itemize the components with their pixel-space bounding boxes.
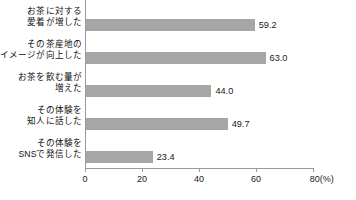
category-label: その体験を SNSで発信した [0, 138, 82, 161]
bar-value-label: 59.2 [259, 19, 277, 31]
category-label: その茶産地の イメージが向上した [0, 39, 82, 62]
bar [86, 19, 255, 31]
bar [86, 52, 266, 64]
bar-value-label: 49.7 [232, 118, 250, 130]
category-label: お茶に対する 愛着が増した [0, 6, 82, 29]
x-axis-tick-label: 80(%) [310, 174, 334, 184]
x-axis-tick [256, 168, 257, 172]
bar-value-label: 23.4 [157, 151, 175, 163]
x-axis-tick-label: 40 [194, 174, 204, 184]
bar-value-label: 63.0 [270, 52, 288, 64]
bar [86, 151, 153, 163]
x-axis-tick [142, 168, 143, 172]
bar [86, 85, 211, 97]
x-axis-tick-label: 20 [137, 174, 147, 184]
x-axis-tick-label: 0 [82, 174, 87, 184]
x-axis-tick [85, 168, 86, 172]
bar [86, 118, 228, 130]
bar-chart: お茶に対する 愛着が増した その茶産地の イメージが向上した お茶を飲む量が 増… [0, 0, 356, 200]
bar-value-label: 44.0 [215, 85, 233, 97]
category-axis-labels: お茶に対する 愛着が増した その茶産地の イメージが向上した お茶を飲む量が 増… [0, 0, 82, 168]
x-axis-tick-label: 60 [251, 174, 261, 184]
x-axis-tick [199, 168, 200, 172]
plot-area: 0 20 40 60 80(%) 59.2 63.0 44.0 49.7 23.… [85, 0, 313, 168]
x-axis-tick [313, 168, 314, 172]
category-label: その体験を 知人に話した [0, 105, 82, 128]
category-label: お茶を飲む量が 増えた [0, 72, 82, 95]
